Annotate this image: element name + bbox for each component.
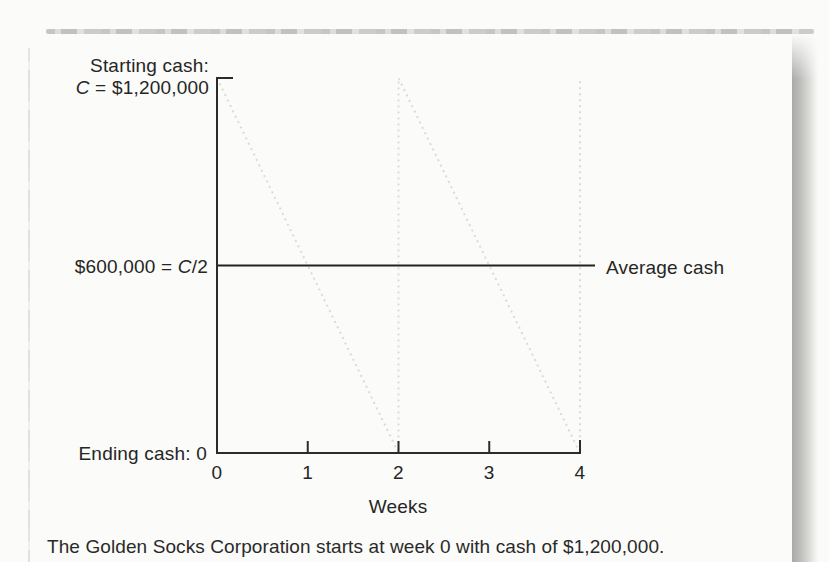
average-cash-value-label: $600,000 = C/2 bbox=[8, 256, 208, 278]
figure-caption: The Golden Socks Corporation starts at w… bbox=[47, 536, 664, 558]
x-tick-label: 1 bbox=[302, 462, 313, 484]
x-axis-title: Weeks bbox=[338, 496, 458, 518]
x-ticks-group bbox=[308, 441, 490, 453]
x-tick-label: 2 bbox=[393, 462, 404, 484]
figure-scan: Starting cash: C = $1,200,000 $600,000 =… bbox=[0, 0, 829, 562]
x-tick-label: 3 bbox=[484, 462, 495, 484]
ending-cash-label: Ending cash: 0 bbox=[7, 443, 207, 465]
x-tick-label: 0 bbox=[212, 462, 223, 484]
series-group bbox=[217, 78, 595, 453]
starting-cash-line2: C = $1,200,000 bbox=[9, 77, 209, 99]
starting-cash-label: Starting cash: C = $1,200,000 bbox=[9, 55, 209, 99]
starting-cash-line1: Starting cash: bbox=[9, 55, 209, 77]
x-tick-label: 4 bbox=[575, 462, 586, 484]
average-cash-line-label: Average cash bbox=[606, 257, 724, 279]
